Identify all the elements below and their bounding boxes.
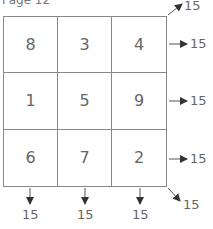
sum-arrows — [0, 0, 213, 229]
sum-col-2: 15 — [77, 207, 94, 222]
sum-row-1: 15 — [190, 36, 207, 51]
sum-diagonal-up: 15 — [184, 0, 201, 13]
sum-row-3: 15 — [190, 151, 207, 166]
sum-col-3: 15 — [132, 207, 149, 222]
sum-row-2: 15 — [190, 93, 207, 108]
sum-diagonal-down: 15 — [183, 197, 200, 212]
sum-col-1: 15 — [22, 207, 39, 222]
arrow-diagonal-down-icon — [168, 188, 180, 201]
arrow-diagonal-up-icon — [168, 4, 182, 15]
